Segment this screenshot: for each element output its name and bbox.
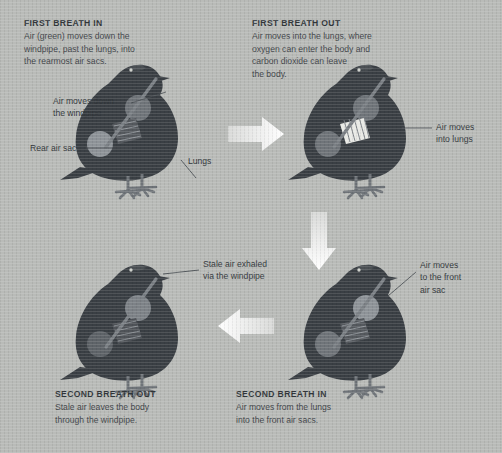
arrow-right — [228, 117, 284, 151]
callout-stale-air: Stale air exhaled via the windpipe — [203, 258, 267, 283]
panel-title-first-breath-out: FIRST BREATH OUT — [252, 18, 341, 28]
panel-title-second-breath-out: SECOND BREATH OUT — [55, 389, 156, 399]
panel-body-second-breath-in: Air moves from the lungs into the front … — [236, 401, 426, 426]
bird-second-breath-out — [60, 265, 178, 398]
arrow-left — [218, 309, 274, 343]
callout-windpipe: Air moves down the windpipe — [53, 95, 114, 120]
panel-title-second-breath-in: SECOND BREATH IN — [236, 389, 327, 399]
bird-second-breath-in — [288, 265, 406, 398]
arrow-down — [302, 212, 336, 270]
bird-first-breath-in — [60, 65, 178, 198]
diagram-canvas: FIRST BREATH IN Air (green) moves down t… — [0, 0, 502, 453]
callout-front-air-sac: Air moves to the front air sac — [420, 259, 461, 296]
panel-body-second-breath-out: Stale air leaves the body through the wi… — [55, 401, 245, 426]
leader-front-air-sac — [388, 272, 416, 296]
callout-rear-air-sac: Rear air sac — [30, 142, 76, 154]
bird-first-breath-out — [288, 65, 406, 198]
leader-stale-air — [163, 270, 199, 274]
panel-body-first-breath-in: Air (green) moves down the windpipe, pas… — [24, 30, 214, 68]
panel-title-first-breath-in: FIRST BREATH IN — [24, 18, 103, 28]
callout-lungs: Lungs — [188, 155, 211, 167]
callout-air-into-lungs: Air moves into lungs — [436, 121, 474, 146]
panel-body-first-breath-out: Air moves into the lungs, where oxygen c… — [252, 30, 457, 80]
